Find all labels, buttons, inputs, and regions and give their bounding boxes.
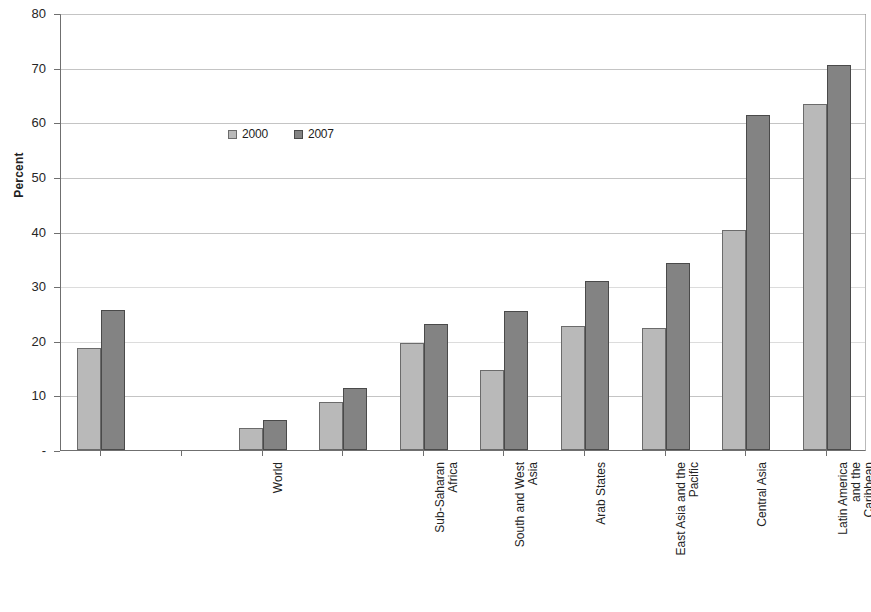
- legend-swatch-icon-2000: [228, 130, 237, 139]
- bar-2000: [561, 326, 585, 450]
- x-tick-mark: [262, 451, 263, 456]
- x-axis-category-label: South and West Asia: [514, 462, 540, 612]
- bar-2000: [722, 230, 746, 450]
- bar-2007: [263, 420, 287, 450]
- x-tick-mark: [100, 451, 101, 456]
- x-tick-mark: [342, 451, 343, 456]
- legend-swatch-icon-2007: [294, 130, 303, 139]
- y-tick-label: 60: [0, 116, 46, 129]
- gridline: [61, 178, 865, 179]
- bar-2000: [400, 343, 424, 450]
- bar-2007: [585, 281, 609, 450]
- x-tick-mark: [745, 451, 746, 456]
- y-tick-label: 80: [0, 7, 46, 20]
- x-tick-mark: [826, 451, 827, 456]
- x-axis-category-label: Sub-Saharan Africa: [434, 462, 460, 612]
- bar-2000: [642, 328, 666, 450]
- bar-2000: [480, 370, 504, 450]
- x-axis-category-label: Central Asia: [756, 462, 769, 612]
- x-tick-mark: [423, 451, 424, 456]
- x-tick-mark: [181, 451, 182, 456]
- x-axis-category-label: East Asia and the Pacific: [675, 462, 701, 612]
- plot-area: [60, 14, 866, 451]
- bar-2007: [666, 263, 690, 450]
- bar-2000: [77, 348, 101, 450]
- gridline: [61, 14, 865, 15]
- y-tick-label: 50: [0, 171, 46, 184]
- y-tick-label: 30: [0, 280, 46, 293]
- legend-entry-2007: 2007: [294, 127, 334, 141]
- x-tick-mark: [584, 451, 585, 456]
- bar-chart: Percent -1020304050607080 WorldSub-Sahar…: [0, 0, 871, 612]
- y-tick-label: 10: [0, 389, 46, 402]
- gridline: [61, 69, 865, 70]
- y-tick-label: 20: [0, 335, 46, 348]
- legend-label-2007: 2007: [308, 127, 334, 141]
- bar-2007: [827, 65, 851, 450]
- x-axis-category-label: Latin America and the Caribbean: [837, 462, 871, 612]
- bar-2000: [239, 428, 263, 450]
- x-tick-mark: [665, 451, 666, 456]
- bar-2007: [746, 115, 770, 450]
- x-axis-category-label: World: [272, 462, 285, 612]
- x-tick-mark: [503, 451, 504, 456]
- bar-2007: [101, 310, 125, 450]
- bar-2007: [343, 388, 367, 450]
- gridline: [61, 123, 865, 124]
- bar-2000: [803, 104, 827, 450]
- y-tick-label: 40: [0, 226, 46, 239]
- legend: 2000 2007: [228, 127, 334, 141]
- bar-2007: [504, 311, 528, 450]
- legend-entry-2000: 2000: [228, 127, 268, 141]
- x-axis-category-label: Arab States: [595, 462, 608, 612]
- y-tick-label: -: [0, 444, 46, 457]
- bar-2000: [319, 402, 343, 450]
- y-tick-label: 70: [0, 62, 46, 75]
- y-tick-mark: [54, 451, 60, 452]
- bar-2007: [424, 324, 448, 450]
- legend-label-2000: 2000: [242, 127, 268, 141]
